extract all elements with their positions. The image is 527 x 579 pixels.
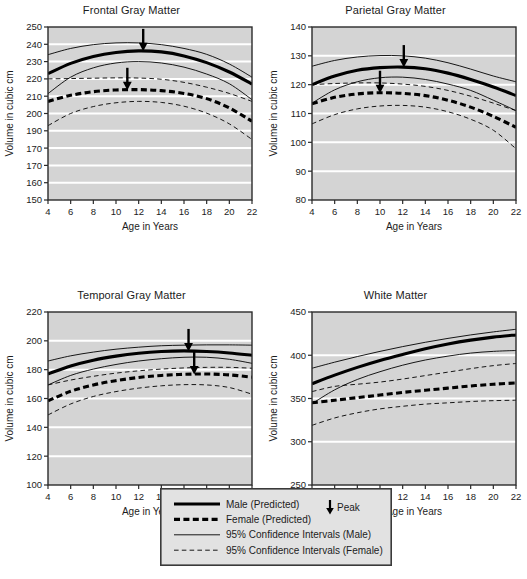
svg-text:200: 200 bbox=[26, 108, 42, 119]
svg-text:170: 170 bbox=[26, 143, 42, 154]
svg-text:100: 100 bbox=[26, 479, 42, 490]
svg-text:22: 22 bbox=[511, 491, 522, 502]
svg-text:Peak: Peak bbox=[337, 502, 361, 513]
svg-text:16: 16 bbox=[443, 491, 454, 502]
svg-text:Age in Years: Age in Years bbox=[386, 221, 442, 232]
svg-text:350: 350 bbox=[290, 393, 306, 404]
svg-text:140: 140 bbox=[26, 422, 42, 433]
svg-text:100: 100 bbox=[290, 137, 306, 148]
svg-text:450: 450 bbox=[290, 306, 306, 317]
svg-text:22: 22 bbox=[511, 206, 522, 217]
svg-text:22: 22 bbox=[247, 206, 258, 217]
svg-text:220: 220 bbox=[26, 73, 42, 84]
svg-text:250: 250 bbox=[26, 21, 42, 32]
svg-text:140: 140 bbox=[290, 21, 306, 32]
svg-text:8: 8 bbox=[355, 206, 360, 217]
svg-text:Female (Predicted): Female (Predicted) bbox=[226, 514, 311, 525]
svg-text:Volume in cubic cm: Volume in cubic cm bbox=[268, 355, 279, 441]
svg-text:12: 12 bbox=[133, 491, 144, 502]
svg-text:Age in Years: Age in Years bbox=[122, 221, 178, 232]
svg-text:10: 10 bbox=[111, 491, 122, 502]
svg-text:20: 20 bbox=[488, 206, 499, 217]
svg-text:16: 16 bbox=[179, 206, 190, 217]
svg-text:80: 80 bbox=[295, 194, 306, 205]
svg-text:Volume in cubic cm: Volume in cubic cm bbox=[4, 70, 15, 156]
svg-text:220: 220 bbox=[26, 306, 42, 317]
svg-text:14: 14 bbox=[156, 206, 167, 217]
svg-text:200: 200 bbox=[26, 335, 42, 346]
svg-text:160: 160 bbox=[26, 177, 42, 188]
svg-text:150: 150 bbox=[26, 194, 42, 205]
svg-text:Age in Years: Age in Years bbox=[386, 506, 442, 517]
svg-text:Volume in cubic cm: Volume in cubic cm bbox=[268, 70, 279, 156]
svg-text:6: 6 bbox=[68, 491, 73, 502]
svg-text:10: 10 bbox=[375, 206, 386, 217]
svg-text:120: 120 bbox=[26, 451, 42, 462]
svg-text:120: 120 bbox=[290, 79, 306, 90]
svg-text:190: 190 bbox=[26, 125, 42, 136]
svg-text:95% Confidence Intervals (Male: 95% Confidence Intervals (Male) bbox=[226, 529, 371, 540]
svg-text:95% Confidence Intervals (Fema: 95% Confidence Intervals (Female) bbox=[226, 545, 383, 556]
svg-text:14: 14 bbox=[420, 491, 431, 502]
panel-parietal-gray-matter: Parietal Gray Matter 8090100110120130140… bbox=[264, 0, 527, 290]
panel-frontal-gray-matter: Frontal Gray Matter 15016017017019020021… bbox=[0, 0, 263, 290]
svg-text:230: 230 bbox=[26, 56, 42, 67]
legend-graphic: Male (Predicted)Female (Predicted)95% Co… bbox=[160, 488, 392, 566]
svg-text:12: 12 bbox=[133, 206, 144, 217]
svg-text:400: 400 bbox=[290, 350, 306, 361]
svg-text:18: 18 bbox=[465, 491, 476, 502]
svg-text:130: 130 bbox=[290, 50, 306, 61]
svg-text:8: 8 bbox=[91, 491, 96, 502]
figure-legend: Male (Predicted)Female (Predicted)95% Co… bbox=[160, 488, 392, 566]
svg-text:6: 6 bbox=[332, 206, 337, 217]
svg-text:20: 20 bbox=[224, 206, 235, 217]
svg-text:16: 16 bbox=[443, 206, 454, 217]
svg-text:4: 4 bbox=[45, 491, 50, 502]
svg-text:160: 160 bbox=[26, 393, 42, 404]
svg-text:240: 240 bbox=[26, 39, 42, 50]
svg-text:Volume in cubic cm: Volume in cubic cm bbox=[4, 355, 15, 441]
svg-text:18: 18 bbox=[465, 206, 476, 217]
svg-text:300: 300 bbox=[290, 436, 306, 447]
svg-text:6: 6 bbox=[68, 206, 73, 217]
plot-parietal-gray-matter: 809010011012013014046810121416182022Age … bbox=[264, 0, 527, 290]
svg-text:18: 18 bbox=[201, 206, 212, 217]
svg-text:4: 4 bbox=[309, 206, 314, 217]
svg-text:170: 170 bbox=[26, 160, 42, 171]
svg-text:8: 8 bbox=[91, 206, 96, 217]
plot-frontal-gray-matter: 1501601701701902002102202302402504681012… bbox=[0, 0, 263, 290]
svg-text:12: 12 bbox=[397, 491, 408, 502]
svg-text:14: 14 bbox=[420, 206, 431, 217]
svg-text:210: 210 bbox=[26, 91, 42, 102]
brain-volume-figure: Frontal Gray Matter 15016017017019020021… bbox=[0, 0, 527, 579]
svg-text:90: 90 bbox=[295, 166, 306, 177]
svg-text:20: 20 bbox=[488, 491, 499, 502]
svg-text:110: 110 bbox=[291, 108, 306, 119]
svg-text:180: 180 bbox=[26, 364, 42, 375]
svg-text:Male (Predicted): Male (Predicted) bbox=[226, 499, 299, 510]
svg-text:10: 10 bbox=[111, 206, 122, 217]
svg-text:12: 12 bbox=[397, 206, 408, 217]
svg-text:4: 4 bbox=[45, 206, 50, 217]
